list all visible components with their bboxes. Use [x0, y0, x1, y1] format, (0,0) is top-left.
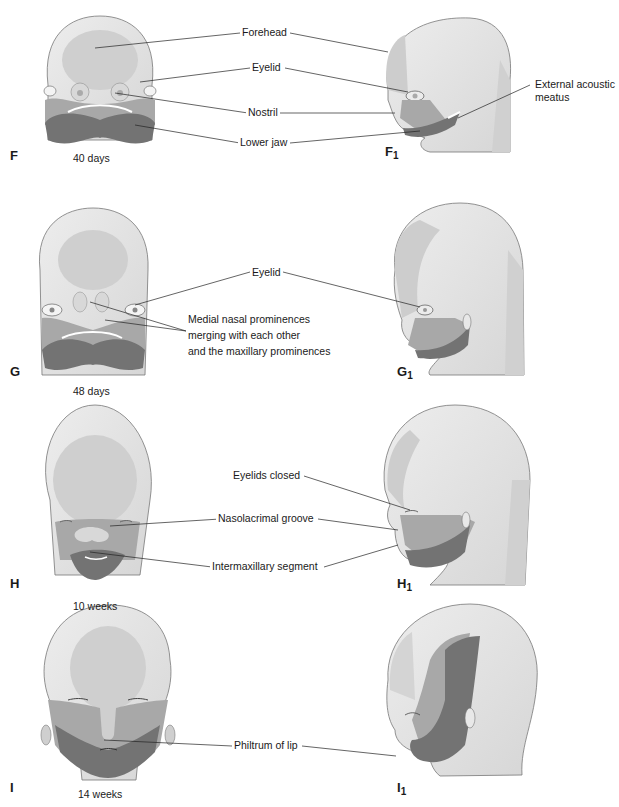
head-front-48-days [39, 208, 148, 375]
label-nostril: Nostril [246, 106, 280, 119]
diagram-artwork [0, 0, 619, 807]
label-eyelid-g: Eyelid [250, 266, 283, 279]
label-external-acoustic-meatus-line1: External acoustic [533, 78, 617, 91]
label-forehead: Forehead [240, 26, 289, 39]
label-nasolacrimal-groove: Nasolacrimal groove [216, 512, 316, 525]
note-medial-nasal-line3: and the maxillary prominences [186, 345, 332, 358]
head-front-14-weeks [41, 605, 175, 780]
head-side-10-weeks [384, 405, 530, 585]
stage-14-weeks: 14 weeks [78, 788, 122, 800]
label-eyelids-closed: Eyelids closed [231, 469, 302, 482]
head-front-40-days [44, 16, 156, 143]
panel-letter-h1: H1 [397, 576, 412, 593]
label-intermaxillary-segment: Intermaxillary segment [210, 560, 320, 573]
head-front-10-weeks [46, 405, 152, 580]
head-side-40-days [386, 18, 510, 152]
stage-48-days: 48 days [73, 385, 110, 397]
note-medial-nasal-line1: Medial nasal prominences [186, 313, 312, 326]
panel-letter-g: G [10, 364, 20, 379]
note-medial-nasal-line2: merging with each other [186, 329, 302, 342]
label-philtrum-of-lip: Philtrum of lip [232, 739, 300, 752]
label-external-acoustic-meatus-line2: meatus [533, 91, 571, 104]
label-lower-jaw: Lower jaw [238, 136, 289, 149]
panel-letter-f: F [10, 148, 18, 163]
label-eyelid: Eyelid [250, 61, 283, 74]
panel-letter-h: H [10, 576, 19, 591]
head-side-14-weeks [387, 604, 537, 776]
panel-letter-g1: G1 [397, 364, 413, 381]
panel-letter-f1: F1 [385, 144, 399, 161]
head-side-48-days [394, 203, 524, 375]
stage-40-days: 40 days [73, 152, 110, 164]
panel-letter-i1: I1 [397, 780, 406, 797]
stage-10-weeks: 10 weeks [73, 600, 117, 612]
panel-letter-i: I [10, 780, 14, 795]
